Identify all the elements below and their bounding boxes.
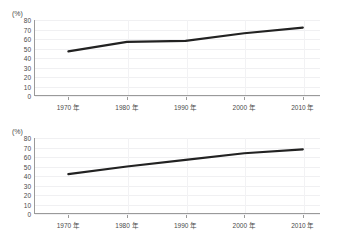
x-axis-tick-mark bbox=[68, 97, 69, 100]
x-axis-tick-mark bbox=[303, 215, 304, 218]
chart-page: (%) 80706050403020100 1970 年1980 年1990 年… bbox=[0, 0, 347, 245]
y-axis-tick-label: 20 bbox=[24, 192, 31, 199]
x-axis-tick-label: 1990 年 bbox=[174, 103, 197, 112]
y-axis-tick-label: 60 bbox=[24, 154, 31, 161]
x-axis-tick-mark bbox=[244, 97, 245, 100]
x-axis-tick-label: 1970 年 bbox=[57, 221, 80, 230]
y-axis-tick-labels-top: 80706050403020100 bbox=[12, 20, 31, 96]
y-axis-tick-label: 0 bbox=[27, 93, 31, 100]
x-axis-tick-label: 1980 年 bbox=[115, 221, 138, 230]
x-axis-labels-top: 1970 年1980 年1990 年2000 年2010 年 bbox=[34, 103, 320, 115]
x-axis-tick-mark bbox=[127, 97, 128, 100]
x-axis-ticks-top bbox=[34, 97, 320, 101]
series-svg-top bbox=[34, 20, 320, 96]
x-axis-tick-mark bbox=[127, 215, 128, 218]
x-axis-tick-label: 2010 年 bbox=[291, 103, 314, 112]
x-axis-tick-label: 2010 年 bbox=[291, 221, 314, 230]
x-axis-labels-bottom: 1970 年1980 年1990 年2000 年2010 年 bbox=[34, 221, 320, 233]
x-axis-tick-label: 2000 年 bbox=[233, 103, 256, 112]
y-axis-tick-label: 10 bbox=[24, 201, 31, 208]
x-axis-tick-label: 1990 年 bbox=[174, 221, 197, 230]
y-axis-tick-label: 50 bbox=[24, 45, 31, 52]
y-axis-unit-label-bottom: (%) bbox=[12, 128, 23, 136]
x-axis-tick-mark bbox=[244, 215, 245, 218]
series-svg-bottom bbox=[34, 138, 320, 214]
x-axis-ticks-bottom bbox=[34, 215, 320, 219]
y-axis-tick-label: 60 bbox=[24, 36, 31, 43]
x-axis-tick-mark bbox=[303, 97, 304, 100]
series-line-top bbox=[68, 28, 303, 52]
y-axis-unit-label-top: (%) bbox=[12, 10, 23, 18]
y-axis-tick-label: 40 bbox=[24, 173, 31, 180]
y-axis-tick-labels-bottom: 80706050403020100 bbox=[12, 138, 31, 214]
x-axis-tick-label: 1980 年 bbox=[115, 103, 138, 112]
y-axis-tick-label: 30 bbox=[24, 64, 31, 71]
y-axis-tick-label: 20 bbox=[24, 74, 31, 81]
x-axis-tick-mark bbox=[68, 215, 69, 218]
y-axis-tick-label: 0 bbox=[27, 211, 31, 218]
y-axis-tick-label: 80 bbox=[24, 17, 31, 24]
y-axis-tick-label: 40 bbox=[24, 55, 31, 62]
plot-wrap-bottom bbox=[34, 138, 320, 214]
line-chart-top: (%) 80706050403020100 1970 年1980 年1990 年… bbox=[0, 4, 347, 122]
x-axis-tick-label: 1970 年 bbox=[57, 103, 80, 112]
y-axis-tick-label: 70 bbox=[24, 26, 31, 33]
series-line-bottom bbox=[68, 149, 303, 174]
y-axis-tick-label: 30 bbox=[24, 182, 31, 189]
x-axis-tick-label: 2000 年 bbox=[233, 221, 256, 230]
x-axis-tick-mark bbox=[186, 215, 187, 218]
y-axis-tick-label: 70 bbox=[24, 144, 31, 151]
plot-wrap-top bbox=[34, 20, 320, 96]
y-axis-tick-label: 10 bbox=[24, 83, 31, 90]
line-chart-bottom: (%) 80706050403020100 1970 年1980 年1990 年… bbox=[0, 122, 347, 240]
y-axis-tick-label: 50 bbox=[24, 163, 31, 170]
x-axis-tick-mark bbox=[186, 97, 187, 100]
y-axis-tick-label: 80 bbox=[24, 135, 31, 142]
